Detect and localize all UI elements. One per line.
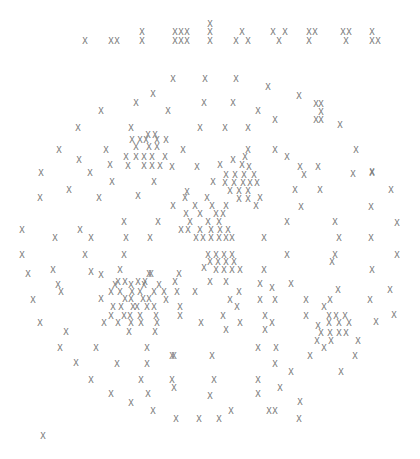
x-glyph: X [197, 210, 202, 219]
x-glyph: X [87, 169, 92, 178]
x-glyph: X [133, 143, 138, 152]
x-glyph: X [154, 143, 159, 152]
x-glyph: X [297, 398, 302, 407]
x-glyph: X [284, 251, 289, 260]
x-glyph: X [255, 107, 260, 116]
x-glyph: X [352, 352, 357, 361]
x-pattern-canvas: XXXXXXXXXXXXXXXXXXXXXXXXXXXXX XXXXXXXXXX… [0, 0, 420, 459]
x-glyph: X [234, 303, 239, 312]
x-glyph: X [66, 186, 71, 195]
x-glyph: X [151, 288, 156, 297]
x-glyph: X [261, 234, 266, 243]
x-glyph: X [147, 234, 152, 243]
x-glyph: X [108, 37, 113, 46]
x-glyph: X [98, 295, 103, 304]
x-glyph: X [239, 28, 244, 37]
x-glyph: X [207, 258, 212, 267]
x-glyph: X [213, 266, 218, 275]
x-glyph: X [223, 326, 228, 335]
x-glyph: X [145, 390, 150, 399]
x-glyph: X [288, 368, 293, 377]
x-glyph: X [207, 392, 212, 401]
x-glyph: X [239, 161, 244, 170]
x-glyph: X [144, 344, 149, 353]
x-glyph: X [108, 288, 113, 297]
x-glyph: X [122, 278, 127, 287]
x-glyph: X [196, 415, 201, 424]
x-glyph: X [133, 153, 138, 162]
x-glyph: X [73, 359, 78, 368]
x-glyph: X [221, 266, 226, 275]
x-glyph: X [303, 312, 308, 321]
x-glyph: X [272, 407, 277, 416]
x-glyph: X [19, 251, 24, 260]
x-glyph: X [272, 296, 277, 305]
x-glyph: X [82, 251, 87, 260]
x-glyph: X [151, 178, 156, 187]
x-glyph: X [261, 266, 266, 275]
x-glyph: X [109, 178, 114, 187]
x-glyph: X [245, 37, 250, 46]
x-glyph: X [184, 37, 189, 46]
x-glyph: X [229, 234, 234, 243]
x-glyph: X [201, 264, 206, 273]
x-glyph: X [52, 234, 57, 243]
x-glyph: X [192, 288, 197, 297]
x-glyph: X [227, 296, 232, 305]
x-glyph: X [209, 352, 214, 361]
x-glyph: X [245, 124, 250, 133]
x-glyph: X [58, 288, 63, 297]
x-glyph: X [180, 146, 185, 155]
x-glyph: X [257, 280, 262, 289]
x-glyph: X [328, 337, 333, 346]
x-glyph: X [327, 296, 332, 305]
x-glyph: X [174, 288, 179, 297]
x-glyph: X [170, 75, 175, 84]
x-glyph: X [273, 344, 278, 353]
x-glyph: X [171, 384, 176, 393]
x-glyph: X [255, 376, 260, 385]
x-glyph: X [126, 328, 131, 337]
x-glyph: X [223, 278, 228, 287]
x-glyph: X [150, 407, 155, 416]
x-glyph: X [210, 178, 215, 187]
x-glyph: X [312, 28, 317, 37]
x-glyph: X [303, 296, 308, 305]
x-glyph: X [155, 218, 160, 227]
x-glyph: X [306, 37, 311, 46]
x-glyph: X [277, 384, 282, 393]
x-glyph: X [88, 268, 93, 277]
x-glyph: X [163, 296, 168, 305]
x-glyph: X [169, 163, 174, 172]
x-glyph: X [314, 337, 319, 346]
x-glyph: X [318, 116, 323, 125]
x-glyph: X [107, 161, 112, 170]
x-glyph: X [193, 234, 198, 243]
x-glyph: X [198, 319, 203, 328]
x-glyph: X [114, 37, 119, 46]
x-glyph: X [391, 311, 396, 320]
x-glyph: X [76, 156, 81, 165]
x-glyph: X [326, 319, 331, 328]
x-glyph: X [30, 296, 35, 305]
x-glyph: X [115, 319, 120, 328]
x-glyph: X [336, 329, 341, 338]
x-glyph: X [37, 319, 42, 328]
x-glyph: X [75, 124, 80, 133]
x-glyph: X [254, 179, 259, 188]
x-glyph: X [101, 319, 106, 328]
x-glyph: X [237, 266, 242, 275]
x-glyph: X [169, 352, 174, 361]
x-glyph: X [253, 202, 258, 211]
x-glyph: X [233, 37, 238, 46]
x-glyph: X [262, 326, 267, 335]
x-glyph: X [282, 28, 287, 37]
x-glyph: X [19, 226, 24, 235]
x-glyph: X [246, 163, 251, 172]
x-glyph: X [57, 344, 62, 353]
x-glyph: X [369, 266, 374, 275]
x-glyph: X [178, 226, 183, 235]
x-glyph: X [369, 169, 374, 178]
x-glyph: X [121, 251, 126, 260]
x-glyph: X [228, 407, 233, 416]
